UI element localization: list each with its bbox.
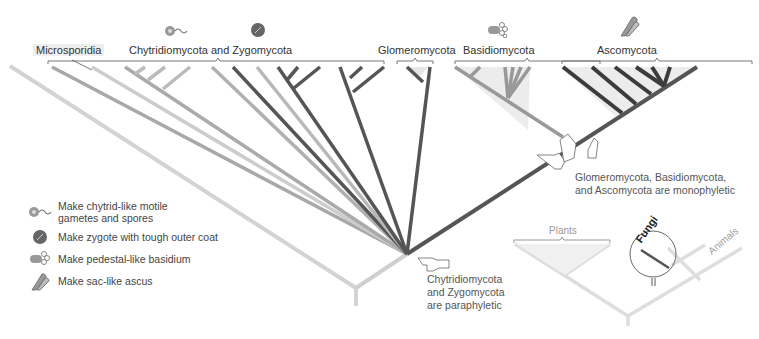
basidium-icon xyxy=(487,22,509,42)
fungi-branch xyxy=(641,250,669,268)
legend-item-ascus: Make sac-like ascus xyxy=(28,270,218,292)
label-chytrid-zygo: Chytridiomycota and Zygomycota xyxy=(129,44,292,56)
label-microsporidia: Microsporidia xyxy=(33,44,104,56)
legend-item-basidium: Make pedestal-like basidium xyxy=(28,248,218,270)
clade-brackets xyxy=(48,58,752,64)
legend: Make chytrid-like motilegametes and spor… xyxy=(28,198,218,292)
basidium-icon xyxy=(28,250,52,268)
label-basidiomycota: Basidiomycota xyxy=(463,44,535,56)
chytrid-motile-spore-icon xyxy=(164,24,190,42)
ascus-icon xyxy=(618,14,640,42)
paraphyletic-note: Chytridiomycota and Zygomycota are parap… xyxy=(427,273,505,312)
inset-label-plants: Plants xyxy=(549,225,577,236)
monophyletic-note: Glomeromycota, Basidiomycota, and Ascomy… xyxy=(575,171,735,197)
label-ascomycota: Ascomycota xyxy=(597,44,657,56)
legend-item-chytrid: Make chytrid-like motilegametes and spor… xyxy=(28,198,218,226)
zygote-coat-icon xyxy=(28,228,52,246)
chytrid-motile-spore-icon xyxy=(28,203,52,221)
plants-fill xyxy=(516,244,610,275)
legend-item-zygote: Make zygote with tough outer coat xyxy=(28,226,218,248)
ascus-icon xyxy=(28,272,52,290)
label-glomeromycota: Glomeromycota xyxy=(378,44,456,56)
plants-bracket xyxy=(514,237,610,243)
zygote-coat-icon xyxy=(250,22,266,42)
